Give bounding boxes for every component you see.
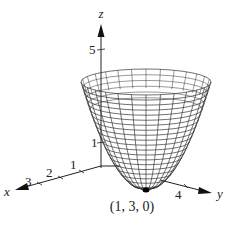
z-axis-arrow-icon: [98, 24, 105, 37]
x-axis-label: x: [3, 184, 10, 199]
z-axis-label: z: [97, 6, 103, 21]
x-tick-label-3: 3: [25, 174, 32, 189]
z-tick-1: [97, 142, 105, 143]
vertex-label: (1, 3, 0): [110, 199, 155, 215]
z-tick-label-1: 1: [91, 135, 98, 150]
x-tick-label-1: 1: [70, 157, 77, 172]
y-axis: [160, 180, 203, 191]
y-axis-arrow-icon: [198, 187, 212, 194]
z-tick-5: [97, 49, 105, 50]
vertex-point: [143, 188, 150, 193]
paraboloid-figure: z 5 1 x 1 2 3 y 4 (1, 3, 0): [0, 0, 238, 227]
y-tick-label-4: 4: [175, 187, 182, 202]
y-axis-label: y: [215, 186, 223, 201]
z-tick-label-5: 5: [89, 42, 96, 57]
x-tick-label-2: 2: [46, 165, 53, 180]
